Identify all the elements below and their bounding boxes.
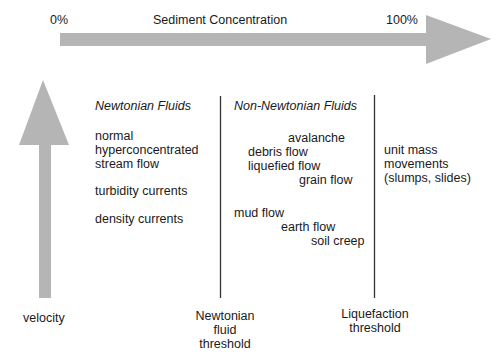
threshold-label-line: threshold (180, 337, 270, 351)
axis-end-label: 100% (386, 13, 418, 27)
threshold-label-line: Newtonian (180, 309, 270, 323)
non-newtonian-item: avalanche (288, 131, 345, 145)
threshold-label-line: fluid (180, 323, 270, 337)
newtonian-item: density currents (95, 212, 183, 226)
newtonian-title: Newtonian Fluids (95, 99, 191, 113)
unit-mass-item: movements (384, 157, 449, 171)
unit-mass-item: unit mass (384, 143, 438, 157)
liquefaction-threshold-label: Liquefaction threshold (330, 307, 420, 335)
axis-title: Sediment Concentration (153, 13, 287, 27)
newtonian-item: hyperconcentrated (95, 143, 199, 157)
non-newtonian-item: soil creep (311, 234, 365, 248)
axis-start-label: 0% (50, 13, 68, 27)
newtonian-threshold-label: Newtonian fluid threshold (180, 309, 270, 351)
non-newtonian-title: Non-Newtonian Fluids (234, 99, 357, 113)
newtonian-item: turbidity currents (95, 184, 187, 198)
threshold-label-line: threshold (330, 321, 420, 335)
velocity-arrow (19, 80, 69, 298)
non-newtonian-item: mud flow (234, 206, 284, 220)
non-newtonian-item: earth flow (281, 220, 335, 234)
velocity-label: velocity (23, 311, 65, 325)
unit-mass-item: (slumps, slides) (384, 171, 471, 185)
non-newtonian-item: debris flow (248, 145, 308, 159)
non-newtonian-item: grain flow (299, 173, 353, 187)
newtonian-item: stream flow (95, 157, 159, 171)
non-newtonian-item: liquefied flow (248, 159, 320, 173)
threshold-label-line: Liquefaction (330, 307, 420, 321)
newtonian-item: normal (95, 129, 133, 143)
